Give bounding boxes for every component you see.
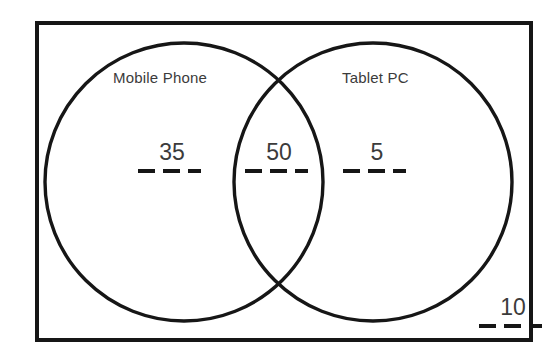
set-label-tablet-pc: Tablet PC [342, 70, 409, 85]
dashed-underline [242, 169, 316, 174]
dashed-underline [340, 169, 414, 174]
count-intersection: 50 [242, 141, 316, 174]
venn-diagram-canvas: Mobile Phone Tablet PC 35 50 5 10 [0, 0, 554, 360]
set-label-mobile-phone: Mobile Phone [113, 70, 207, 85]
count-value: 50 [242, 141, 316, 164]
count-value: 10 [476, 296, 550, 319]
count-outside-sets: 10 [476, 296, 550, 329]
count-value: 35 [135, 141, 209, 164]
dashed-underline [476, 324, 550, 329]
dashed-underline [135, 169, 209, 174]
count-tablet-pc-only: 5 [340, 141, 414, 174]
count-mobile-phone-only: 35 [135, 141, 209, 174]
venn-shapes [0, 0, 554, 360]
count-value: 5 [340, 141, 414, 164]
